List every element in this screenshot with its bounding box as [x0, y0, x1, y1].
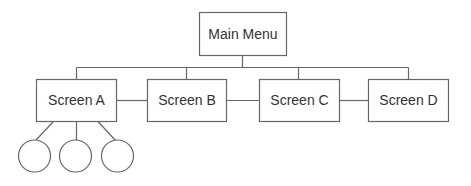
screen-d-node: Screen D	[369, 80, 449, 122]
sub-node-3	[102, 140, 134, 172]
screen-a-node: Screen A	[37, 80, 117, 122]
main-menu-node: Main Menu	[200, 13, 287, 56]
screen-c-node: Screen C	[260, 80, 340, 122]
navigation-diagram: Main Menu Screen A Screen B Screen C Scr…	[0, 0, 471, 186]
screen-d-label: Screen D	[379, 92, 437, 108]
sub-link-3	[98, 122, 116, 142]
screen-c-label: Screen C	[270, 92, 328, 108]
main-menu-label: Main Menu	[208, 26, 277, 42]
screen-b-node: Screen B	[148, 80, 227, 122]
sub-link-1	[36, 122, 54, 141]
sub-node-1	[19, 140, 51, 172]
sub-node-2	[60, 140, 92, 172]
screen-b-label: Screen B	[158, 92, 216, 108]
screen-a-label: Screen A	[48, 92, 105, 108]
